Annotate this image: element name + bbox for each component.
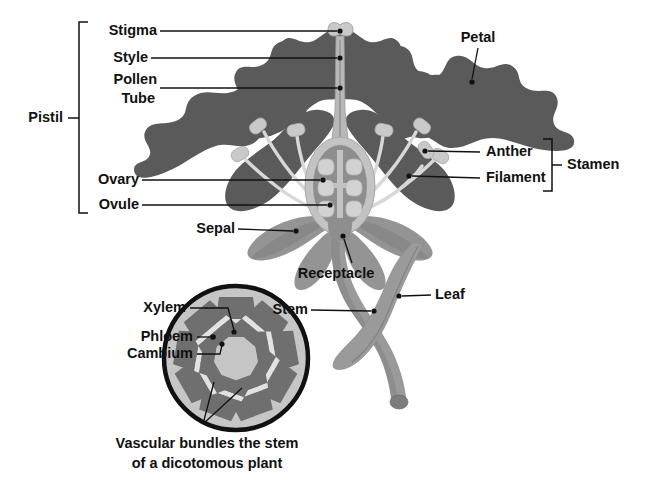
label-stigma: Stigma [109,22,158,38]
leader-dot-stigma [337,28,342,33]
leader-dot-sepal [293,228,298,233]
label-pollen: Pollen [113,71,157,87]
leader-dot-phloem [210,334,216,340]
label-ovule: Ovule [99,196,139,212]
label-filament: Filament [486,169,546,185]
label-xylem: Xylem [143,299,186,315]
leader-dot-style [337,55,342,60]
label-pistil: Pistil [28,109,63,125]
label-leaf: Leaf [435,286,465,302]
label-ovary: Ovary [98,171,139,187]
ovule [318,180,334,196]
ovule [346,201,362,217]
label-cambium: Cambium [127,345,193,361]
flower-anatomy-diagram: Stigma Style Pollen Tube Pistil Ovary Ov… [0,0,650,486]
leader-dot-cambium [219,341,224,346]
leader-dot-leaf [396,293,401,298]
label-anther: Anther [486,143,533,159]
leader-dot-stem [371,308,376,313]
caption-line-2: of a dicotomous plant [132,455,283,471]
ovule [346,159,362,175]
leader-leaf [402,295,431,296]
label-sepal: Sepal [196,220,235,236]
label-tube: Tube [121,90,155,106]
leader-dot-pollen-tube [337,85,342,90]
diagram-canvas: Stigma Style Pollen Tube Pistil Ovary Ov… [0,0,650,486]
label-phloem: Phloem [141,328,193,344]
label-petal: Petal [461,29,496,45]
ovule [346,180,362,196]
leader-dot-ovule [327,202,332,207]
pistil-bracket [79,22,88,213]
leader-dot-xylem [231,329,236,334]
label-stem: Stem [273,301,308,317]
label-receptacle: Receptacle [298,265,375,281]
leader-dot-receptacle [340,233,345,238]
leader-dot-ovary [320,177,325,182]
leader-dot-filament [406,173,411,178]
ovule [318,159,334,175]
leader-dot-anther [422,148,427,153]
stem-cut-end [390,395,408,409]
leader-dot-petal [469,79,474,84]
label-style: Style [113,49,148,65]
label-stamen: Stamen [567,156,619,172]
caption-line-1: Vascular bundles the stem [116,435,299,451]
